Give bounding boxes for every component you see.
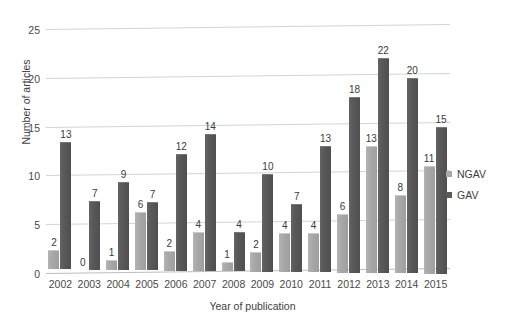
bar-group: 1322	[363, 16, 392, 274]
legend-swatch-icon	[446, 171, 452, 177]
bar-value-label: 15	[436, 115, 447, 125]
legend-swatch-icon	[446, 192, 452, 198]
x-tick-label: 2005	[133, 278, 162, 290]
x-tick-label: 2002	[46, 278, 75, 290]
bar-rect	[378, 58, 389, 273]
bar-rect	[135, 212, 146, 271]
y-tick-label: 20	[18, 74, 40, 84]
bar-value-label: 9	[121, 170, 127, 180]
legend-item-ngav[interactable]: NGAV	[446, 168, 486, 180]
y-tick-label: 5	[18, 220, 40, 230]
bar-value-label: 1	[224, 250, 230, 260]
y-axis-tick-labels: 0510152025	[18, 0, 40, 330]
bar-group: 67	[133, 16, 162, 274]
bar-group: 820	[392, 16, 421, 274]
bar-rect	[262, 174, 273, 272]
bar-value-label: 6	[138, 200, 144, 210]
bar-rect	[395, 195, 406, 273]
bar-value-label: 18	[349, 85, 360, 95]
bar-rect	[48, 250, 59, 270]
x-tick-label: 2004	[104, 278, 133, 290]
bar-rect	[349, 97, 360, 273]
bar-value-label: 13	[320, 134, 331, 144]
x-axis-title: Year of publication	[0, 300, 505, 312]
legend-label: GAV	[457, 189, 478, 201]
x-axis-tick-labels: 2002200320042005200620072008200920102011…	[46, 278, 450, 294]
bar-groups: 213071967212414142104741361813228201115	[46, 16, 450, 274]
bar-value-label: 20	[407, 66, 418, 76]
bar-value-label: 4	[282, 221, 288, 231]
bar-value-label: 2	[253, 240, 259, 250]
x-tick-label: 2013	[363, 278, 392, 290]
bar-value-label: 2	[167, 239, 173, 249]
bar-value-label: 10	[262, 162, 273, 172]
bar-group: 414	[190, 16, 219, 274]
bar-rect	[337, 214, 348, 273]
x-tick-label: 2007	[190, 278, 219, 290]
bar-rect	[291, 204, 302, 272]
bar-value-label: 2	[51, 238, 57, 248]
bar-value-label: 12	[176, 142, 187, 152]
x-tick-label: 2012	[335, 278, 364, 290]
bar-value-label: 8	[397, 183, 403, 193]
bar-value-label: 22	[378, 46, 389, 56]
bar-group: 413	[306, 16, 335, 274]
x-tick-label: 2014	[392, 278, 421, 290]
bar-value-label: 7	[150, 190, 156, 200]
bar-group: 212	[161, 16, 190, 274]
bar-value-label: 7	[92, 189, 98, 199]
bar-group: 47	[277, 16, 306, 274]
bar-rect	[234, 232, 245, 271]
x-tick-label: 2010	[277, 278, 306, 290]
y-tick-label: 0	[18, 269, 40, 279]
x-tick-label: 2011	[306, 278, 335, 290]
bar-value-label: 14	[205, 122, 216, 132]
bar-rect	[89, 201, 100, 269]
bar-rect	[424, 166, 435, 273]
legend: NGAVGAV	[446, 168, 486, 210]
bar-value-label: 13	[60, 130, 71, 140]
y-tick-label: 25	[18, 25, 40, 35]
bar-rect	[436, 127, 447, 273]
bar-rect	[222, 262, 233, 272]
x-tick-label: 2008	[219, 278, 248, 290]
bar-group: 14	[219, 16, 248, 274]
bar-rect	[106, 260, 117, 270]
bar-chart: Number of articles 0510152025 2130719672…	[0, 0, 505, 330]
bar-value-label: 1	[109, 248, 115, 258]
bar-rect	[250, 252, 261, 272]
bar-rect	[164, 251, 175, 271]
bar-value-label: 11	[424, 154, 434, 164]
bar-rect	[320, 146, 331, 273]
bar-rect	[193, 232, 204, 271]
bar-group: 19	[104, 16, 133, 274]
x-tick-label: 2006	[161, 278, 190, 290]
legend-label: NGAV	[457, 168, 486, 180]
bar-rect	[366, 146, 377, 273]
x-tick-label: 2003	[75, 278, 104, 290]
bar-value-label: 6	[340, 202, 346, 212]
bar-value-label: 4	[311, 221, 317, 231]
x-tick-label: 2015	[421, 278, 450, 290]
bar-rect	[407, 78, 418, 273]
bar-group: 618	[335, 16, 364, 274]
bar-rect	[308, 233, 319, 272]
bar-group: 210	[248, 16, 277, 274]
legend-item-gav[interactable]: GAV	[446, 189, 486, 201]
x-tick-label: 2009	[248, 278, 277, 290]
bar-rect	[60, 142, 71, 269]
bar-group: 213	[46, 16, 75, 274]
bar-group: 07	[75, 16, 104, 274]
bar-rect	[118, 182, 129, 270]
y-tick-label: 10	[18, 171, 40, 181]
bar-value-label: 13	[366, 134, 377, 144]
bar-rect	[147, 202, 158, 270]
bar-value-label: 7	[294, 192, 300, 202]
bar-value-label: 4	[195, 220, 201, 230]
plot-area: 213071967212414142104741361813228201115	[46, 16, 450, 274]
bar-rect	[176, 154, 187, 271]
bar-group: 1115	[421, 16, 450, 274]
bar-value-label: 4	[236, 220, 242, 230]
bar-rect	[279, 233, 290, 272]
bar-value-label: 0	[80, 258, 86, 268]
